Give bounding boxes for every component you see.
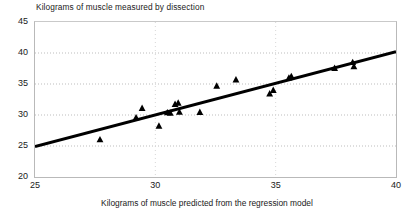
data-point-marker [270, 87, 277, 93]
scatter-chart: Kilograms of muscle measured by dissecti… [0, 0, 414, 216]
data-point-marker [213, 82, 220, 88]
y-tick-label-30: 30 [0, 109, 28, 119]
data-point-marker [97, 136, 104, 142]
data-point-marker [133, 114, 140, 120]
y-tick-label-35: 35 [0, 78, 28, 88]
plot-canvas [35, 22, 396, 177]
data-point-marker [196, 109, 203, 115]
x-tick-label-25: 25 [15, 180, 55, 190]
x-tick-label-35: 35 [256, 180, 296, 190]
x-tick-label-30: 30 [135, 180, 175, 190]
chart-title: Kilograms of muscle measured by dissecti… [36, 2, 204, 12]
x-tick-label-40: 40 [376, 180, 414, 190]
y-tick-label-45: 45 [0, 16, 28, 26]
x-axis-title: Kilograms of muscle predicted from the r… [0, 198, 414, 208]
y-tick-label-40: 40 [0, 47, 28, 57]
plot-area [34, 21, 397, 178]
data-point-marker [139, 105, 146, 111]
data-point-marker [233, 76, 240, 82]
y-tick-label-25: 25 [0, 140, 28, 150]
trendline [35, 52, 396, 147]
data-point-marker [156, 122, 163, 128]
